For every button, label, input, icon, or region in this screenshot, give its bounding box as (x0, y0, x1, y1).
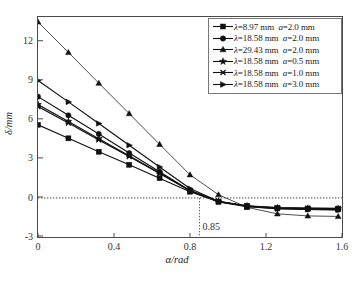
y-tick-label: 6 (28, 113, 33, 124)
legend-item: λ=8.97 mm a=2.0 mm (212, 21, 338, 33)
y-tick-label: 0 (28, 192, 33, 203)
x-tick-label: 1.2 (260, 241, 273, 252)
x-axis-label: α/rad (0, 254, 354, 265)
y-tick-label: 9 (28, 74, 33, 85)
legend-marker-square (212, 21, 234, 32)
legend-marker-cross (212, 67, 234, 78)
x-tick-label: 1.6 (336, 241, 349, 252)
legend-marker-arrow (212, 79, 234, 90)
y-tick-label: 12 (23, 35, 33, 46)
legend-label: λ=18.58 mm a=3.0 mm (234, 79, 319, 89)
legend-item: λ=18.58 mm a=0.5 mm (212, 56, 338, 68)
y-tick-label: -3 (25, 231, 33, 242)
legend-item: λ=18.58 mm a=3.0 mm (212, 79, 338, 91)
legend-marker-triangle (212, 44, 234, 55)
legend-marker-circle (212, 33, 234, 44)
chart-container: 00.40.81.21.6-30369120.85 α/rad δ/mm λ=8… (0, 0, 354, 287)
x-tick-label: 0 (36, 241, 41, 252)
legend-item: λ=18.58 mm a=2.0 mm (212, 33, 338, 45)
crossing-annotation: 0.85 (203, 221, 221, 232)
legend-label: λ=8.97 mm a=2.0 mm (234, 22, 315, 32)
legend-label: λ=18.58 mm a=1.0 mm (234, 68, 319, 78)
legend: λ=8.97 mm a=2.0 mmλ=18.58 mm a=2.0 mmλ=2… (208, 18, 342, 94)
legend-label: λ=18.58 mm a=2.0 mm (234, 33, 319, 43)
legend-label: λ=29.43 mm a=2.0 mm (234, 45, 319, 55)
legend-item: λ=29.43 mm a=2.0 mm (212, 44, 338, 56)
x-tick-label: 0.8 (184, 241, 197, 252)
legend-marker-star (212, 56, 234, 67)
x-tick-label: 0.4 (108, 241, 121, 252)
y-axis-label: δ/mm (3, 94, 14, 154)
legend-item: λ=18.58 mm a=1.0 mm (212, 67, 338, 79)
legend-label: λ=18.58 mm a=0.5 mm (234, 56, 319, 66)
y-tick-label: 3 (28, 152, 33, 163)
